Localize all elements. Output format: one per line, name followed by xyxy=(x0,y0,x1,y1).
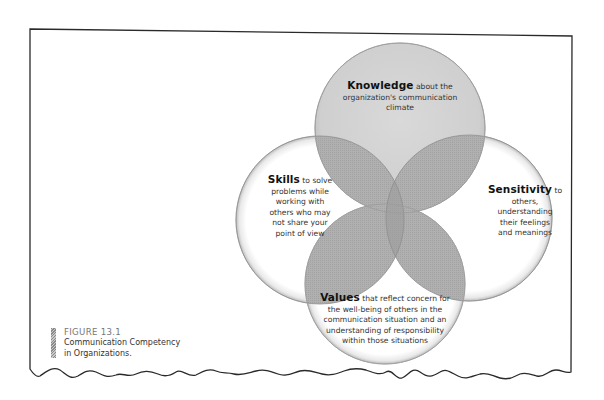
label-knowledge: Knowledge about the organization's commu… xyxy=(330,80,470,114)
figure-number: FIGURE 13.1 xyxy=(64,327,180,338)
keyword-skills: Skills xyxy=(268,173,300,185)
figure-title-line2: in Organizations. xyxy=(64,349,180,360)
keyword-sensitivity: Sensitivity xyxy=(488,183,552,195)
figure-title-line1: Communication Competency xyxy=(64,338,180,349)
label-values: Values that reflect concern for the well… xyxy=(318,292,452,347)
caption-bar-decoration xyxy=(51,328,56,358)
figure-caption: FIGURE 13.1 Communication Competency in … xyxy=(64,327,180,359)
keyword-values: Values xyxy=(320,291,360,303)
keyword-knowledge: Knowledge xyxy=(347,79,413,91)
label-sensitivity: Sensitivity to others, understanding the… xyxy=(481,184,569,239)
label-skills: Skills to solve problems while working w… xyxy=(250,174,350,240)
